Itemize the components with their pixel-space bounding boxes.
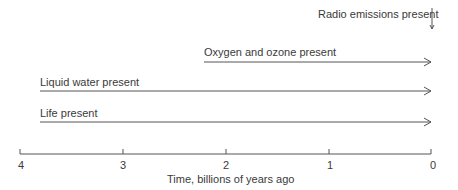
tick-label-4: 4 xyxy=(18,159,24,171)
tick-label-0: 0 xyxy=(430,159,436,171)
axis-title: Time, billions of years ago xyxy=(167,173,294,185)
oxygen-ozone-label: Oxygen and ozone present xyxy=(204,46,336,58)
tick-label-1: 1 xyxy=(327,159,333,171)
life-label: Life present xyxy=(40,107,97,119)
liquid-water-label: Liquid water present xyxy=(40,76,139,88)
tick-label-3: 3 xyxy=(120,159,126,171)
tick-label-2: 2 xyxy=(223,159,229,171)
radio-emissions-label: Radio emissions present xyxy=(318,8,438,20)
